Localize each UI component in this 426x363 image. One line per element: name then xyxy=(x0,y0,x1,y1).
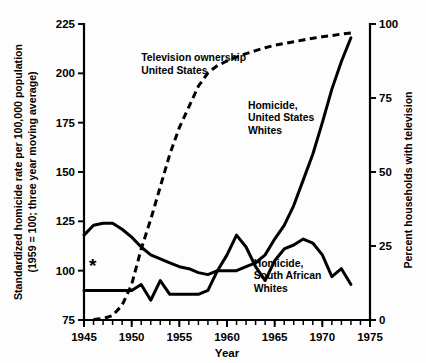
left-tick-label: 75 xyxy=(62,314,75,326)
left-tick-label: 100 xyxy=(56,265,75,277)
left-axis-title-line2: (1959 = 100; three year moving average) xyxy=(26,71,38,272)
right-tick-label: 50 xyxy=(379,166,392,178)
south-african-homicide-label-line3: Whites xyxy=(254,283,288,294)
x-tick-label: 1955 xyxy=(167,331,193,343)
series-line-homicide-south-african-whites xyxy=(84,235,351,300)
right-tick-label: 0 xyxy=(379,314,385,326)
x-axis-group: 1945195019551960196519701975 Year xyxy=(71,320,383,359)
television-ownership-label-line1: Television ownership xyxy=(141,52,246,63)
left-tick-label: 225 xyxy=(56,18,76,30)
series-line-homicide-united-states-whites xyxy=(84,38,351,275)
x-tick-label: 1965 xyxy=(262,331,288,343)
right-tick-label: 25 xyxy=(379,240,392,252)
right-tick-label: 100 xyxy=(379,18,398,30)
us-homicide-label-line3: Whites xyxy=(248,125,282,136)
plot-annotations: Television ownershipUnited StatesHomicid… xyxy=(141,52,321,293)
x-tick-label: 1960 xyxy=(214,331,240,343)
right-axis-group: 0255075100 Percent households with telev… xyxy=(370,18,414,326)
x-tick-label: 1945 xyxy=(71,331,97,343)
us-homicide-label-line1: Homicide, xyxy=(248,100,298,111)
x-tick-label: 1970 xyxy=(310,331,336,343)
left-tick-label: 150 xyxy=(56,166,75,178)
left-axis-title-line1: Standardized homicide rate per 100,000 p… xyxy=(12,44,24,300)
x-tick-label: 1950 xyxy=(119,331,145,343)
south-african-homicide-label-line1: Homicide, xyxy=(254,258,304,269)
right-tick-label: 75 xyxy=(379,92,392,104)
right-axis-title: Percent households with television xyxy=(402,91,414,268)
homicide-television-chart: 75100125150175200225 Standardized homici… xyxy=(0,0,426,363)
x-axis-tick-labels: 1945195019551960196519701975 xyxy=(71,331,383,343)
south-african-homicide-label-line2: South African xyxy=(254,270,322,281)
x-axis-title: Year xyxy=(215,347,240,359)
asterisk-marker: * xyxy=(89,255,97,276)
chart-svg: 75100125150175200225 Standardized homici… xyxy=(0,0,426,363)
us-homicide-label-line2: United States xyxy=(248,112,315,123)
left-tick-label: 125 xyxy=(56,215,76,227)
left-tick-label: 175 xyxy=(56,117,76,129)
x-tick-label: 1975 xyxy=(357,331,383,343)
left-axis-tick-labels: 75100125150175200225 xyxy=(56,18,76,326)
television-ownership-label-line2: United States xyxy=(141,65,208,76)
left-tick-label: 200 xyxy=(56,67,75,79)
right-axis-tick-labels: 0255075100 xyxy=(379,18,398,326)
left-axis-group: 75100125150175200225 Standardized homici… xyxy=(12,18,84,326)
